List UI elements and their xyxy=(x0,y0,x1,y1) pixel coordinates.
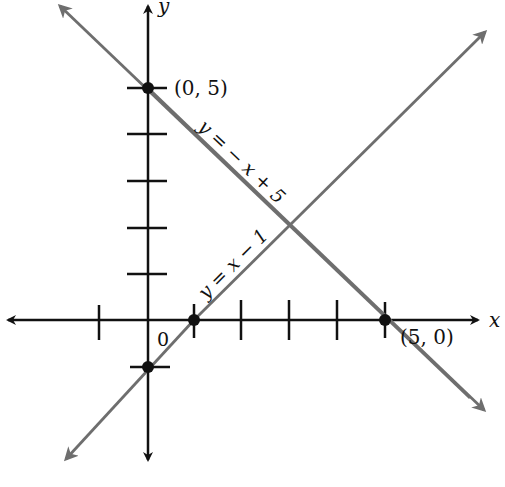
equation-label-line2: y = x − 1 xyxy=(193,224,273,304)
equation-label-line1: y = − x + 5 xyxy=(194,114,291,207)
point-label-5-0: (5, 0) xyxy=(400,325,454,349)
y-axis xyxy=(127,6,170,460)
point-5-0 xyxy=(379,314,391,326)
origin-label: 0 xyxy=(157,328,169,350)
point-label-0-5: (0, 5) xyxy=(174,76,228,100)
point-1-0 xyxy=(188,314,200,326)
y-axis-label: y xyxy=(157,0,170,18)
x-axis-label: x xyxy=(489,308,500,332)
point-0-neg1 xyxy=(142,361,154,373)
point-0-5 xyxy=(142,82,154,94)
graph-figure: y x 0 (0, 5) (5, 0) y = − x + 5 y = x − … xyxy=(0,0,505,487)
coordinate-plane: y x 0 (0, 5) (5, 0) y = − x + 5 y = x − … xyxy=(0,0,505,487)
